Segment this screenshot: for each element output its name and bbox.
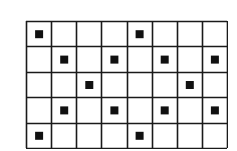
grid-dot (211, 106, 219, 114)
grid-dot (136, 30, 144, 38)
grid-dot (110, 106, 118, 114)
grid-dot (35, 30, 43, 38)
grid-dot (60, 106, 68, 114)
dot-grid-diagram (26, 21, 227, 148)
grid-dot (161, 106, 169, 114)
grid-dot (110, 56, 118, 64)
grid-dot (60, 56, 68, 64)
grid-dot (211, 56, 219, 64)
grid-dot (35, 132, 43, 140)
grid-dot (136, 132, 144, 140)
grid-dot (85, 81, 93, 89)
grid-svg (25, 20, 228, 149)
grid-dot (186, 81, 194, 89)
grid-dot (161, 56, 169, 64)
